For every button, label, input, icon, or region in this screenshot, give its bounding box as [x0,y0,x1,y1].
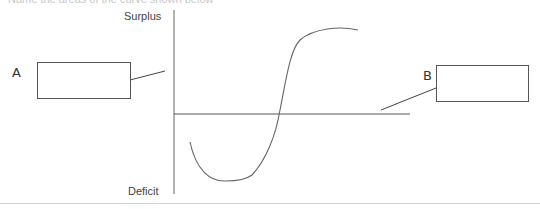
answer-box-b[interactable] [436,65,529,102]
leader-line-a [130,71,165,80]
j-curve [190,28,358,181]
separator-line [0,203,540,204]
j-curve-diagram [0,0,540,209]
answer-box-a[interactable] [37,62,131,99]
leader-line-b [381,88,436,110]
